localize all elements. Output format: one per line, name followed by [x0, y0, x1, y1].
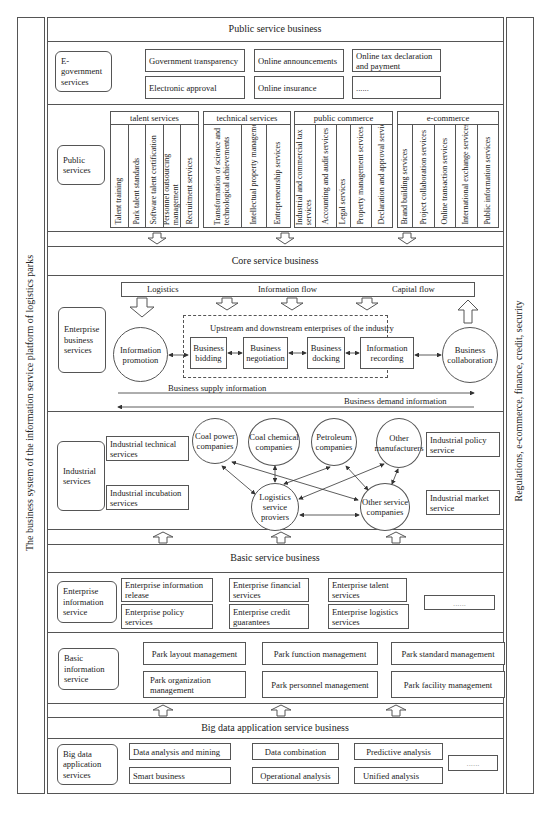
- connectors-overlay: [0, 0, 547, 814]
- flow-arrow-icons: [130, 298, 478, 323]
- down-arrow-icons: [148, 233, 416, 244]
- up-arrow-icons: [153, 532, 406, 716]
